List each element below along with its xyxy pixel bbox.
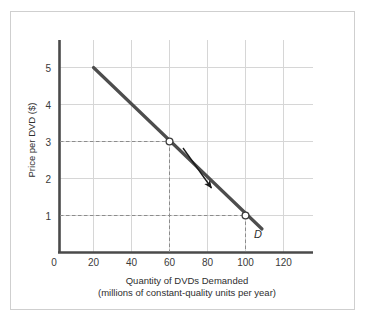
x-tick-label-60: 60: [164, 257, 176, 268]
y-tick-label-1: 1: [45, 211, 51, 222]
y-axis-title: Price per DVD ($): [26, 103, 37, 178]
demand-curve-line: [94, 68, 263, 230]
demand-curve-chart: 5 4 3 2 1 0 20 40 60 80 100 120 D Price …: [0, 0, 370, 324]
x-axis-title: Quantity of DVDs Demanded: [126, 275, 249, 286]
guide-lines: [60, 142, 246, 253]
x-tick-label-40: 40: [126, 257, 138, 268]
data-point-marker-60-3: [166, 138, 173, 145]
x-axis-subtitle: (millions of constant-quality units per …: [98, 287, 276, 298]
y-tick-labels: 5 4 3 2 1: [45, 63, 51, 222]
x-tick-label-20: 20: [88, 257, 100, 268]
data-point-marker-100-1: [242, 212, 249, 219]
x-tick-label-0: 0: [51, 257, 57, 268]
y-tick-label-2: 2: [45, 174, 51, 185]
y-tick-label-5: 5: [45, 63, 51, 74]
x-tick-labels: 0 20 40 60 80 100 120: [51, 257, 292, 268]
x-tick-label-120: 120: [275, 257, 292, 268]
x-tick-label-80: 80: [202, 257, 214, 268]
demand-curve-label: D: [254, 228, 262, 240]
y-tick-label-3: 3: [45, 137, 51, 148]
y-tick-label-4: 4: [45, 100, 51, 111]
x-tick-label-100: 100: [237, 257, 254, 268]
